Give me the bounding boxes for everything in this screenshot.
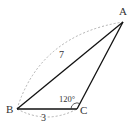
vertex-label-c: C [80,104,87,116]
triangle-diagram: A B C 7 3 120° [0,0,138,128]
side-ca [77,22,123,109]
vertex-label-b: B [6,103,13,115]
vertex-label-a: A [119,5,127,17]
side-bc-length-label: 3 [41,112,46,123]
side-ab-length-label: 7 [59,49,64,60]
side-bc-dimension-arc [17,109,77,117]
angle-c-label: 120° [59,94,75,104]
